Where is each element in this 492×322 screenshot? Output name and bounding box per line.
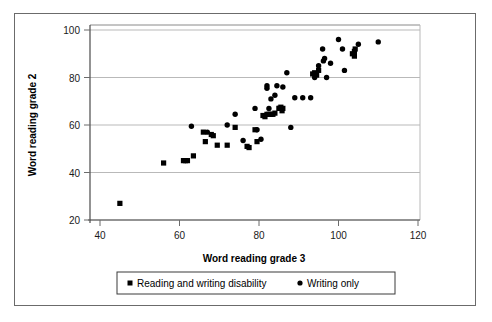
- x-tick-label: 120: [410, 230, 427, 241]
- series-reading-and-writing-disability: [117, 46, 358, 206]
- data-point-circle: [280, 84, 285, 89]
- data-point-circle: [292, 95, 297, 100]
- data-point-circle: [189, 123, 194, 128]
- data-point-circle: [272, 93, 277, 98]
- data-point-circle: [321, 58, 326, 63]
- axes: [88, 25, 420, 223]
- data-point-circle: [232, 112, 237, 117]
- data-point-circle: [308, 95, 313, 100]
- data-point-square: [191, 153, 196, 158]
- data-point-square: [316, 68, 321, 73]
- data-point-square: [246, 145, 251, 150]
- data-point-circle: [328, 61, 333, 66]
- legend-item-label: Writing only: [307, 278, 359, 289]
- y-axis-tick-labels: 20406080100: [63, 25, 80, 226]
- data-point-circle: [342, 68, 347, 73]
- data-point-square: [233, 125, 238, 130]
- data-point-circle: [266, 106, 271, 111]
- x-axis-title: Word reading grade 3: [203, 253, 306, 264]
- data-point-circle: [254, 127, 259, 132]
- legend: Reading and writing disabilityWriting on…: [117, 272, 395, 294]
- data-point-circle: [205, 129, 210, 134]
- y-tick-label: 60: [69, 120, 81, 131]
- data-point-circle: [274, 83, 279, 88]
- legend-items: Reading and writing disabilityWriting on…: [128, 278, 360, 289]
- data-point-square: [272, 111, 277, 116]
- data-point-square: [185, 158, 190, 163]
- legend-marker-square: [128, 281, 133, 286]
- y-axis-ticks: [84, 30, 90, 220]
- data-point-square: [352, 54, 357, 59]
- data-point-circle: [316, 63, 321, 68]
- data-point-square: [203, 139, 208, 144]
- data-point-square: [280, 106, 285, 111]
- data-point-circle: [312, 75, 317, 80]
- data-point-circle: [240, 138, 245, 143]
- data-point-circle: [336, 37, 341, 42]
- data-point-square: [353, 46, 358, 51]
- data-point-circle: [284, 70, 289, 75]
- y-tick-label: 40: [69, 168, 81, 179]
- scatter-plot: 406080100120 20406080100 Word reading gr…: [0, 0, 492, 322]
- x-tick-label: 100: [330, 230, 347, 241]
- figure-container: 406080100120 20406080100 Word reading gr…: [0, 0, 492, 322]
- y-tick-label: 20: [69, 215, 81, 226]
- data-point-square: [211, 133, 216, 138]
- data-point-circle: [258, 137, 263, 142]
- x-tick-label: 60: [174, 230, 186, 241]
- data-point-circle: [300, 95, 305, 100]
- y-axis-title: Word reading grade 2: [27, 73, 38, 176]
- data-point-square: [215, 143, 220, 148]
- x-tick-label: 80: [253, 230, 265, 241]
- data-point-circle: [288, 125, 293, 130]
- legend-marker-circle: [297, 280, 302, 285]
- x-axis-ticks: [100, 220, 418, 226]
- data-point-circle: [324, 75, 329, 80]
- x-axis-tick-labels: 406080100120: [94, 230, 426, 241]
- data-point-circle: [340, 46, 345, 51]
- y-tick-label: 80: [69, 73, 81, 84]
- data-point-circle: [252, 106, 257, 111]
- data-point-square: [161, 160, 166, 165]
- legend-item-label: Reading and writing disability: [137, 278, 267, 289]
- data-point-circle: [264, 85, 269, 90]
- data-point-circle: [225, 122, 230, 127]
- y-tick-label: 100: [63, 25, 80, 36]
- data-point-circle: [376, 39, 381, 44]
- data-point-square: [225, 143, 230, 148]
- data-point-circle: [320, 46, 325, 51]
- data-point-circle: [356, 42, 361, 47]
- gridlines: [90, 30, 420, 220]
- data-point-square: [117, 201, 122, 206]
- x-tick-label: 40: [94, 230, 106, 241]
- plot-area-border: [90, 25, 420, 220]
